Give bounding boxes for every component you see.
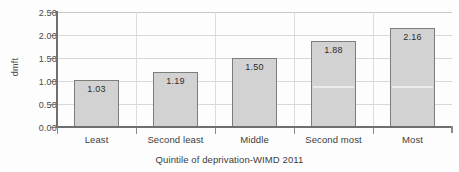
bar-second-least: 1.19 bbox=[153, 72, 198, 127]
bar-value-most: 2.16 bbox=[391, 32, 434, 42]
bar-chart-figure: 2.50 2.00 1.50 1.00 0.50 0.00 1.03 1.19 … bbox=[0, 0, 459, 172]
bar-middle: 1.50 bbox=[232, 58, 277, 127]
bar-value-second-least: 1.19 bbox=[154, 76, 197, 86]
x-category-label-middle: Middle bbox=[215, 134, 294, 145]
bar-value-second-most: 1.88 bbox=[312, 45, 355, 55]
x-axis-end-tick bbox=[451, 126, 453, 133]
gridline-vertical-4 bbox=[373, 12, 374, 127]
x-axis-line bbox=[56, 126, 453, 128]
x-category-label-most: Most bbox=[373, 134, 452, 145]
bar-value-least: 1.03 bbox=[75, 84, 118, 94]
bar-value-middle: 1.50 bbox=[233, 62, 276, 72]
bar-most: 2.16 bbox=[390, 28, 435, 127]
y-axis-title: dmft bbox=[10, 47, 20, 87]
gridline-vertical-2 bbox=[215, 12, 216, 127]
bar-second-most: 1.88 bbox=[311, 41, 356, 128]
y-tick-label-1.00: 1.00 bbox=[17, 77, 57, 87]
x-category-label-least: Least bbox=[57, 134, 136, 145]
y-tick-label-1.50: 1.50 bbox=[17, 54, 57, 64]
y-tick-label-2.50: 2.50 bbox=[17, 8, 57, 18]
y-tick-label-2.00: 2.00 bbox=[17, 31, 57, 41]
gridline-vertical-3 bbox=[294, 12, 295, 127]
x-category-label-second-most: Second most bbox=[294, 134, 373, 145]
y-tick-label-0.00: 0.00 bbox=[17, 123, 57, 133]
x-axis-title: Quintile of deprivation-WIMD 2011 bbox=[0, 154, 459, 165]
x-category-label-second-least: Second least bbox=[136, 134, 215, 145]
plot-area: 1.03 1.19 1.50 1.88 2.16 bbox=[57, 12, 452, 127]
y-tick-label-0.50: 0.50 bbox=[17, 100, 57, 110]
bar-scan-artifact bbox=[392, 86, 433, 88]
bar-scan-artifact bbox=[313, 86, 354, 88]
gridline-vertical-1 bbox=[136, 12, 137, 127]
gridline-2.50 bbox=[57, 12, 452, 13]
y-axis-line bbox=[56, 11, 58, 128]
bar-least: 1.03 bbox=[74, 80, 119, 127]
